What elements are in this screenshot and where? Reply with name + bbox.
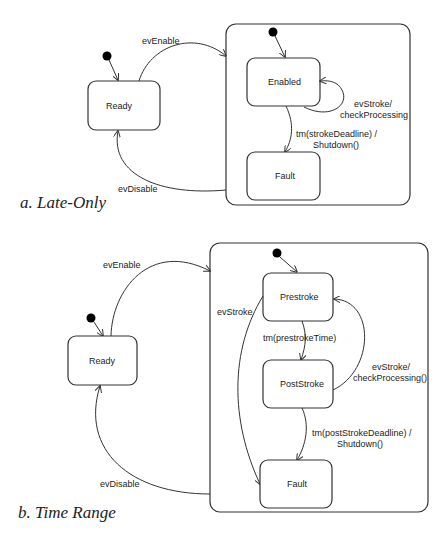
state-label: Ready — [89, 356, 116, 366]
diagram-time-range: Ready evEnable evDisable Prestroke evStr… — [18, 243, 428, 522]
state-prestroke: Prestroke — [263, 273, 333, 321]
transition-label: evEnable — [103, 260, 141, 270]
transition-enable — [139, 43, 226, 81]
state-ready: Ready — [68, 336, 137, 385]
state-label: Fault — [275, 171, 296, 181]
transition-enable — [111, 261, 210, 336]
initial-transition-arrow — [94, 322, 103, 336]
initial-transition-arrow — [109, 60, 118, 80]
transition-disable — [117, 131, 226, 191]
transition-label: Shutdown() — [313, 140, 359, 150]
transition-label: evEnable — [142, 36, 180, 46]
initial-pseudostate-icon — [103, 52, 112, 61]
state-label: Prestroke — [280, 292, 319, 302]
state-label: Enabled — [268, 77, 301, 87]
transition-label: checkProcessing — [340, 110, 408, 120]
state-fault: Fault — [247, 152, 320, 200]
initial-pseudostate-icon — [273, 249, 282, 258]
transition-disable — [96, 386, 210, 494]
transition-label: evStroke — [217, 307, 253, 317]
initial-pseudostate-icon — [87, 314, 96, 323]
transition-label: tm(prestrokeTime) — [263, 333, 336, 343]
transition-label: evStroke/ — [354, 99, 393, 109]
diagram-late-only: Ready evEnable evDisable Enabled evStrok… — [20, 24, 410, 212]
transition-label: evDisable — [100, 479, 140, 489]
transition-label: tm(postStrokeDeadline) / — [312, 428, 412, 438]
statechart-figure: Ready evEnable evDisable Enabled evStrok… — [0, 0, 448, 538]
state-ready: Ready — [88, 81, 160, 130]
state-fault: Fault — [260, 460, 332, 508]
state-poststroke: PostStroke — [263, 360, 333, 408]
transition-label: tm(strokeDeadline) / — [296, 129, 378, 139]
transition-label: evDisable — [118, 184, 158, 194]
state-enabled: Enabled — [247, 58, 320, 106]
transition-label: evStroke/ — [372, 362, 411, 372]
state-label: PostStroke — [280, 379, 324, 389]
transition-label: checkProcessing() — [353, 373, 427, 383]
initial-pseudostate-icon — [269, 28, 278, 37]
transition-label: Shutdown() — [337, 439, 383, 449]
state-label: Fault — [287, 479, 308, 489]
figure-caption: a. Late-Only — [20, 193, 106, 212]
figure-caption: b. Time Range — [18, 503, 116, 522]
state-label: Ready — [106, 101, 133, 111]
